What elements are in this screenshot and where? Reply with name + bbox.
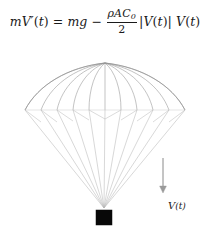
equation-equals: = <box>53 14 64 29</box>
parachute-diagram: V(t) <box>0 40 210 230</box>
velocity-label-arg: (t) <box>175 201 186 211</box>
speed-symbol: V <box>143 14 152 29</box>
gravity-term-g: g <box>79 14 87 29</box>
shroud-line-10 <box>104 110 169 208</box>
gravity-term-mass: m <box>67 14 79 29</box>
shroud-line-5 <box>89 110 104 208</box>
shroud-line-7 <box>104 110 121 208</box>
shroud-line-2 <box>41 110 104 208</box>
shroud-lines <box>25 110 185 208</box>
shroud-line-1 <box>25 110 104 208</box>
canopy-gore-10 <box>105 63 169 110</box>
skirt-scallop-5 <box>89 110 105 119</box>
velocity-arrow-head <box>160 186 167 193</box>
skirt-scallop-8 <box>137 110 153 121</box>
canopy-gores <box>25 63 185 110</box>
abs-bar-close: | <box>168 14 172 29</box>
canopy-gore-2 <box>41 63 105 110</box>
equation-lhs-mass: m <box>10 14 22 29</box>
skirt-scallop-2 <box>41 110 57 122</box>
figure-page: mV′(t) = mg − ρAC0 2 |V(t)| V(t) <box>0 0 210 230</box>
velocity-paren-close: ) <box>195 14 200 29</box>
payload-mass-box <box>96 210 112 225</box>
skirt-scallop-7 <box>121 110 137 120</box>
equation-lhs-velocity-symbol: V <box>22 14 31 29</box>
skirt-scallop-4 <box>73 110 89 120</box>
governing-equation: mV′(t) = mg − ρAC0 2 |V(t)| V(t) <box>0 4 210 38</box>
skirt-scallop-9 <box>153 110 169 122</box>
fraction-numerator: ρAC0 <box>107 8 137 22</box>
numerator-coeff-subscript: 0 <box>131 12 136 21</box>
skirt-scallop-6 <box>105 110 121 119</box>
numerator-area: A <box>114 7 122 20</box>
shroud-line-8 <box>104 110 137 208</box>
numerator-coeff: C <box>122 7 131 20</box>
canopy-gore-7 <box>105 63 121 110</box>
shroud-line-3 <box>57 110 104 208</box>
shroud-line-11 <box>104 110 185 208</box>
shroud-line-9 <box>104 110 153 208</box>
velocity-arrow-label: V(t) <box>168 200 186 211</box>
velocity-arrow <box>160 158 167 193</box>
canopy-gore-5 <box>89 63 105 110</box>
fraction-denominator: 2 <box>117 23 126 35</box>
shroud-line-4 <box>73 110 104 208</box>
equation-row: mV′(t) = mg − ρAC0 2 |V(t)| V(t) <box>10 8 201 35</box>
shroud-line-6-center <box>104 110 105 208</box>
drag-coefficient-fraction: ρAC0 2 <box>107 8 137 35</box>
skirt-scallop-10 <box>169 110 185 122</box>
equation-minus: − <box>91 14 102 29</box>
velocity-symbol: V <box>176 14 185 29</box>
equation-lhs-paren-close: ) <box>44 14 49 29</box>
